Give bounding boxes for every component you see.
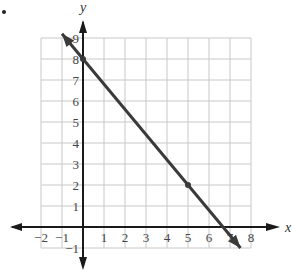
coordinate-plane: xy−2−112345678−1123456789 bbox=[0, 0, 293, 274]
x-tick-label: 6 bbox=[206, 230, 213, 245]
y-tick-label: 6 bbox=[73, 94, 80, 109]
marked-point bbox=[185, 182, 191, 188]
y-axis-label: y bbox=[78, 0, 87, 15]
y-tick-label: 5 bbox=[73, 115, 80, 130]
y-axis-down-arrow-icon bbox=[79, 257, 87, 270]
y-tick-label: 4 bbox=[73, 136, 80, 151]
y-tick-label: 7 bbox=[73, 73, 80, 88]
x-tick-label: 8 bbox=[248, 230, 255, 245]
x-axis-right-arrow-icon bbox=[266, 223, 280, 231]
x-tick-label: 4 bbox=[164, 230, 171, 245]
y-tick-label: 3 bbox=[73, 157, 80, 172]
x-tick-label: 2 bbox=[122, 230, 129, 245]
y-tick-label: 2 bbox=[73, 178, 80, 193]
plotted-line bbox=[62, 34, 241, 248]
marked-point bbox=[80, 56, 86, 62]
x-axis-label: x bbox=[284, 220, 292, 235]
y-tick-label: 1 bbox=[73, 199, 80, 214]
y-tick-label: −1 bbox=[65, 241, 79, 256]
y-axis-up-arrow-icon bbox=[79, 20, 87, 33]
x-axis-left-arrow-icon bbox=[10, 223, 22, 231]
x-tick-label: −2 bbox=[34, 230, 48, 245]
x-tick-label: 3 bbox=[143, 230, 150, 245]
x-tick-label: 1 bbox=[101, 230, 108, 245]
y-tick-label: 9 bbox=[73, 31, 80, 46]
x-tick-label: 5 bbox=[185, 230, 192, 245]
